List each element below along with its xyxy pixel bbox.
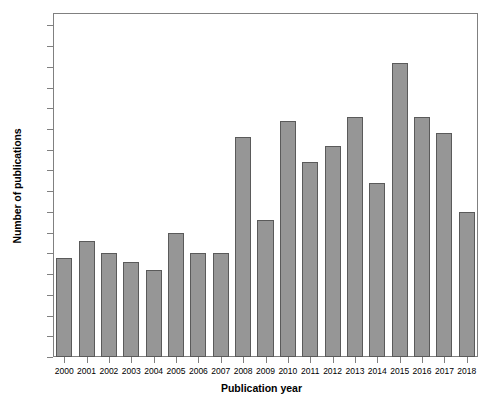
y-tick-mark [47, 336, 53, 337]
bar [369, 183, 385, 357]
x-tick-mark [266, 357, 267, 363]
y-tick-mark [47, 67, 53, 68]
x-tick-mark [333, 357, 334, 363]
x-tick-mark [444, 357, 445, 363]
y-tick-mark [47, 295, 53, 296]
y-tick-mark [47, 274, 53, 275]
x-tick-mark [64, 357, 65, 363]
y-tick-mark [47, 88, 53, 89]
bar [235, 137, 251, 357]
y-tick-mark [47, 25, 53, 26]
bar [280, 121, 296, 357]
bar [414, 117, 430, 357]
x-tick-mark [87, 357, 88, 363]
y-tick-mark [47, 108, 53, 109]
y-axis-title: Number of publications [11, 106, 23, 266]
x-tick-mark [377, 357, 378, 363]
x-tick-mark [131, 357, 132, 363]
x-tick-mark [198, 357, 199, 363]
y-tick-mark [47, 150, 53, 151]
bar [459, 212, 475, 357]
y-tick-mark [47, 233, 53, 234]
bar [436, 133, 452, 357]
y-tick-mark [47, 170, 53, 171]
x-axis-title: Publication year [44, 382, 479, 394]
y-tick-mark [47, 129, 53, 130]
bar [302, 162, 318, 357]
bar [347, 117, 363, 357]
x-tick-mark [400, 357, 401, 363]
x-tick-mark [422, 357, 423, 363]
y-tick-mark [47, 46, 53, 47]
bar [56, 258, 72, 357]
y-tick-mark [47, 191, 53, 192]
x-tick-mark [288, 357, 289, 363]
x-tick-mark [243, 357, 244, 363]
x-tick-mark [154, 357, 155, 363]
bar [190, 253, 206, 357]
x-tick-mark [221, 357, 222, 363]
bar [257, 220, 273, 357]
x-tick-mark [176, 357, 177, 363]
bar [392, 63, 408, 357]
x-tick-mark [355, 357, 356, 363]
bar [325, 146, 341, 357]
x-tick-mark [310, 357, 311, 363]
bar [213, 253, 229, 357]
bar-chart-figure: Number of publications 05101520253035404… [0, 0, 485, 402]
y-tick-mark [47, 316, 53, 317]
bar [123, 262, 139, 357]
x-tick-label: 2018 [447, 366, 485, 376]
y-tick-mark [47, 212, 53, 213]
bar [101, 253, 117, 357]
bar [168, 233, 184, 357]
x-tick-mark [467, 357, 468, 363]
x-tick-mark [109, 357, 110, 363]
bar [79, 241, 95, 357]
y-tick-mark [47, 253, 53, 254]
y-tick-mark [47, 357, 53, 358]
bar [146, 270, 162, 357]
